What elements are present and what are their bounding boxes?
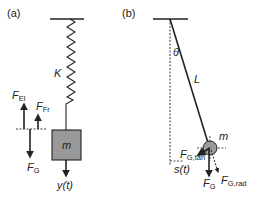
panel-b: (b) θ L m FG,tan FG FG,rad s(t) (122, 7, 247, 191)
panel-a-label: (a) (7, 7, 20, 19)
physics-diagram: (a) K m y(t) FEl FFr FG (b) θ L (0, 0, 259, 197)
gravity-force-label: FG (27, 161, 40, 175)
tangential-force-label: FG,tan (180, 148, 205, 162)
friction-force-label: FFr (36, 100, 50, 114)
spring-constant-label: K (54, 67, 62, 79)
angle-label: θ (173, 46, 179, 58)
bob-mass-label: m (219, 130, 228, 142)
displacement-label: y(t) (56, 179, 73, 191)
arc-length-label: s(t) (174, 163, 190, 175)
panel-b-label: (b) (122, 7, 135, 19)
pendulum-string (170, 19, 209, 146)
panel-a: (a) K m y(t) FEl FFr FG (7, 7, 84, 191)
length-label: L (194, 73, 200, 85)
mass-label: m (62, 139, 71, 151)
gravity-force-label-b: FG (203, 177, 216, 191)
spring (66, 19, 75, 130)
radial-force-label: FG,rad (221, 174, 247, 188)
elastic-force-label: FEl (12, 89, 26, 103)
